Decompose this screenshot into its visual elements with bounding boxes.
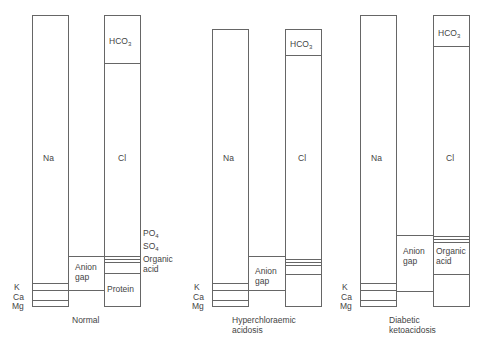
hco3-divider: [104, 63, 141, 64]
mg-line: [32, 300, 69, 301]
gap-top-dka: [397, 235, 433, 236]
ca-line-hyper: [212, 290, 249, 291]
hco3-label-dka: HCO3: [438, 28, 460, 41]
na-label-dka: Na: [371, 153, 382, 163]
organic-acid-label-dka: Organicacid: [436, 246, 466, 266]
caption-dka: Diabeticketoacidosis: [389, 315, 436, 335]
cl-label-hyper: Cl: [298, 153, 306, 163]
gap-bottom-dka: [397, 291, 433, 292]
mg-label-dka: Mg: [340, 301, 352, 311]
ca-line-dka: [360, 290, 397, 291]
so4-label: SO4: [143, 241, 159, 254]
hco3-label-normal: HCO3: [109, 36, 131, 49]
cl-label-normal: Cl: [118, 153, 126, 163]
seg1-dka: [433, 236, 470, 237]
k-label-hyper: K: [194, 282, 200, 292]
organic-acid-label: Organicacid: [143, 254, 173, 274]
anion-gap-label-normal: Aniongap: [75, 262, 97, 282]
seg2-dka: [433, 239, 470, 240]
k-line: [32, 283, 69, 284]
seg2-hyper: [285, 262, 322, 263]
na-column-hyper: [212, 29, 249, 307]
mg-label-hyper: Mg: [192, 301, 204, 311]
k-label: K: [14, 282, 20, 292]
k-label-dka: K: [342, 282, 348, 292]
anion-gap-label-hyper: Aniongap: [255, 266, 277, 286]
organic-line: [104, 262, 141, 263]
caption-hyper: Hyperchloraemicacidosis: [232, 315, 296, 335]
cl-label-dka: Cl: [446, 153, 454, 163]
seg1-hyper: [285, 259, 322, 260]
hco3-divider-hyper: [285, 55, 322, 56]
seg4-dka: [433, 274, 470, 275]
caption-normal: Normal: [72, 315, 99, 325]
gap-bottom-hyper: [249, 290, 285, 291]
seg4-hyper: [285, 274, 322, 275]
po4-line: [104, 256, 141, 257]
protein-line: [104, 273, 141, 274]
k-line-hyper: [212, 283, 249, 284]
seg3-dka: [433, 242, 470, 243]
mg-line-dka: [360, 300, 397, 301]
gap-top-hyper: [249, 256, 285, 257]
so4-line: [104, 259, 141, 260]
seg3-hyper: [285, 265, 322, 266]
k-line-dka: [360, 283, 397, 284]
ca-line: [32, 290, 69, 291]
po4-label: PO4: [143, 228, 159, 241]
hco3-label-hyper: HCO3: [290, 39, 312, 52]
protein-label: Protein: [107, 284, 134, 294]
gap-top-line: [69, 256, 104, 257]
hco3-divider-dka: [433, 46, 470, 47]
anion-gap-label-dka: Aniongap: [403, 246, 425, 266]
mg-line-hyper: [212, 300, 249, 301]
mg-label: Mg: [12, 301, 24, 311]
na-label-hyper: Na: [223, 153, 234, 163]
gap-bottom-line: [69, 290, 104, 291]
na-label-normal: Na: [43, 153, 54, 163]
